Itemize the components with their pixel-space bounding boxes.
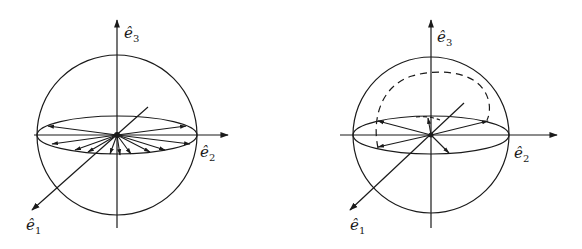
label-e1: ê1 [26,216,41,236]
right-labels: ê3 ê2 ê1 [350,28,529,236]
e1-axis [350,103,464,210]
right-panel [340,20,557,228]
label-e3: ê3 [437,28,452,48]
label-e1: ê1 [350,216,365,236]
e1-axis [32,107,148,210]
label-e2: ê2 [200,143,215,163]
left-panel [32,20,228,228]
label-e3: ê3 [124,24,139,44]
left-labels: ê3 ê2 ê1 [26,24,215,236]
label-e2: ê2 [514,144,529,164]
figure-canvas: ê3 ê2 ê1 ê3 ê2 ê1 [0,0,582,249]
